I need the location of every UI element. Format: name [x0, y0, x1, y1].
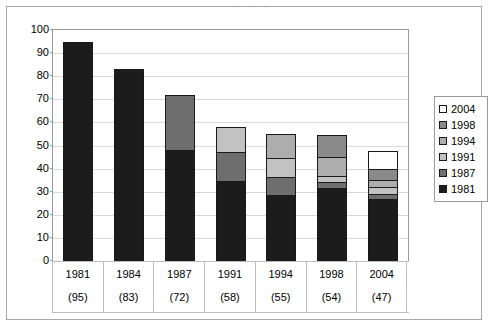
legend-label: 1981 — [451, 184, 475, 195]
bar-segment-2004-1981 — [368, 199, 398, 261]
x-axis-cell-1987: 1987(72) — [153, 261, 204, 313]
legend-label: 1994 — [451, 136, 475, 147]
x-axis-cell-1998: 1998(54) — [306, 261, 357, 313]
y-axis-tick-label: 60 — [37, 115, 49, 127]
bar-segment-2004-2004 — [368, 151, 398, 168]
x-axis-year-label: 1987 — [154, 268, 204, 280]
x-axis-year-label: 1984 — [104, 268, 154, 280]
legend-label: 1998 — [451, 120, 475, 131]
bar-segment-1987-1987 — [165, 95, 195, 150]
x-axis-year-label: 1991 — [205, 268, 255, 280]
legend-swatch-icon — [439, 185, 447, 193]
x-axis-cell-2004: 2004(47) — [356, 261, 407, 313]
x-axis-count-label: (54) — [307, 291, 357, 303]
y-axis-tick-label: 80 — [37, 69, 49, 81]
x-axis-cell-1984: 1984(83) — [103, 261, 154, 313]
bar-segment-1991-1981 — [216, 181, 246, 261]
y-axis-tick-label: 20 — [37, 208, 49, 220]
x-axis-count-label: (95) — [53, 291, 103, 303]
x-axis-count-label: (72) — [154, 291, 204, 303]
legend-item-1981: 1981 — [439, 181, 484, 197]
bar-segment-1998-1998 — [317, 135, 347, 157]
y-axis-tick-label: 100 — [31, 23, 49, 35]
bar-segment-1994-1981 — [266, 195, 296, 261]
bar-segment-1994-1987 — [266, 177, 296, 195]
cropped-title-remnant: · , · , · — [7, 1, 489, 7]
x-axis-count-label: (47) — [357, 291, 406, 303]
y-axis-tick-label: 0 — [43, 254, 49, 266]
bar-segment-1998-1987 — [317, 182, 347, 188]
bar-segment-1998-1994 — [317, 157, 347, 175]
bar-segment-1987-1981 — [165, 150, 195, 261]
legend-swatch-icon — [439, 137, 447, 145]
gridline — [53, 99, 408, 100]
bar-segment-2004-1987 — [368, 194, 398, 199]
bar-segment-2004-1991 — [368, 187, 398, 194]
legend-label: 2004 — [451, 104, 475, 115]
legend-swatch-icon — [439, 121, 447, 129]
bar-segment-1998-1981 — [317, 188, 347, 261]
legend-label: 1991 — [451, 152, 475, 163]
y-axis-tick-label: 70 — [37, 92, 49, 104]
x-axis-year-label: 1981 — [53, 268, 103, 280]
bar-segment-1994-1991 — [266, 158, 296, 176]
legend-item-1998: 1998 — [439, 117, 484, 133]
bar-segment-2004-1994 — [368, 180, 398, 187]
y-axis-tick-label: 30 — [37, 185, 49, 197]
x-axis-bottom-separator — [52, 312, 409, 313]
legend-swatch-icon — [439, 105, 447, 113]
x-axis-count-label: (58) — [205, 291, 255, 303]
bar-segment-1998-1991 — [317, 176, 347, 183]
y-axis-tick-label: 10 — [37, 231, 49, 243]
x-axis-cell-1994: 1994(55) — [255, 261, 306, 313]
x-axis-count-label: (55) — [256, 291, 306, 303]
y-axis: 0102030405060708090100 — [15, 29, 49, 260]
legend-swatch-icon — [439, 169, 447, 177]
bar-segment-1981-1981 — [63, 42, 93, 261]
bar-segment-2004-1998 — [368, 169, 398, 181]
legend: 200419981994199119871981 — [434, 96, 488, 202]
gridline — [53, 122, 408, 123]
y-axis-tick-label: 90 — [37, 46, 49, 58]
x-axis-count-label: (83) — [104, 291, 154, 303]
bar-segment-1994-1994 — [266, 134, 296, 158]
bar-segment-1991-1991 — [216, 127, 246, 152]
legend-item-2004: 2004 — [439, 101, 484, 117]
x-axis-year-label: 1994 — [256, 268, 306, 280]
x-axis-year-label: 1998 — [307, 268, 357, 280]
legend-item-1994: 1994 — [439, 133, 484, 149]
y-axis-tick-label: 40 — [37, 162, 49, 174]
x-axis-cell-1991: 1991(58) — [204, 261, 255, 313]
legend-label: 1987 — [451, 168, 475, 179]
bar-segment-1991-1987 — [216, 152, 246, 181]
legend-swatch-icon — [439, 153, 447, 161]
x-axis-labels: 1981(95)1984(83)1987(72)1991(58)1994(55)… — [52, 261, 409, 313]
chart-frame: · , · , · 0102030405060708090100 1981(95… — [6, 6, 482, 320]
x-axis-year-label: 2004 — [357, 268, 406, 280]
x-axis-cell-1981: 1981(95) — [52, 261, 103, 313]
gridline — [53, 53, 408, 54]
legend-item-1987: 1987 — [439, 165, 484, 181]
y-axis-tick-label: 50 — [37, 139, 49, 151]
bar-segment-1984-1981 — [114, 69, 144, 261]
gridline — [53, 76, 408, 77]
plot-area — [52, 29, 409, 262]
legend-item-1991: 1991 — [439, 149, 484, 165]
